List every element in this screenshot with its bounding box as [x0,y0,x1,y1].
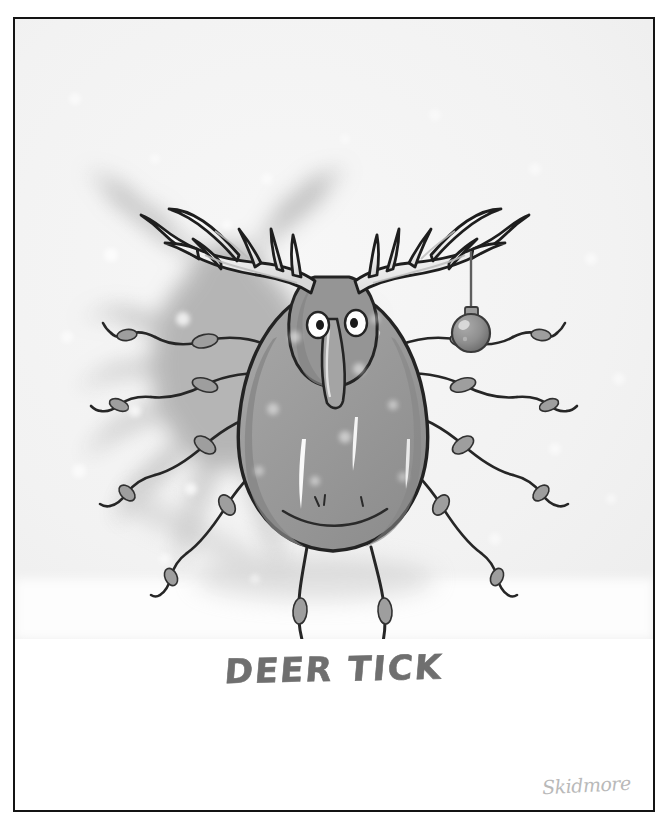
cartoon-illustration [15,19,653,639]
cartoon-page: DEER TICK Skidmore [0,0,672,828]
ornament-ball [452,314,490,352]
artwork-frame: DEER TICK Skidmore [13,17,655,812]
illustration-svg [15,19,653,639]
caption-area: DEER TICK [15,649,653,689]
caption-text: DEER TICK [223,647,445,692]
left-pupil [316,320,324,330]
artist-signature: Skidmore [542,772,632,799]
right-pupil [350,318,358,328]
